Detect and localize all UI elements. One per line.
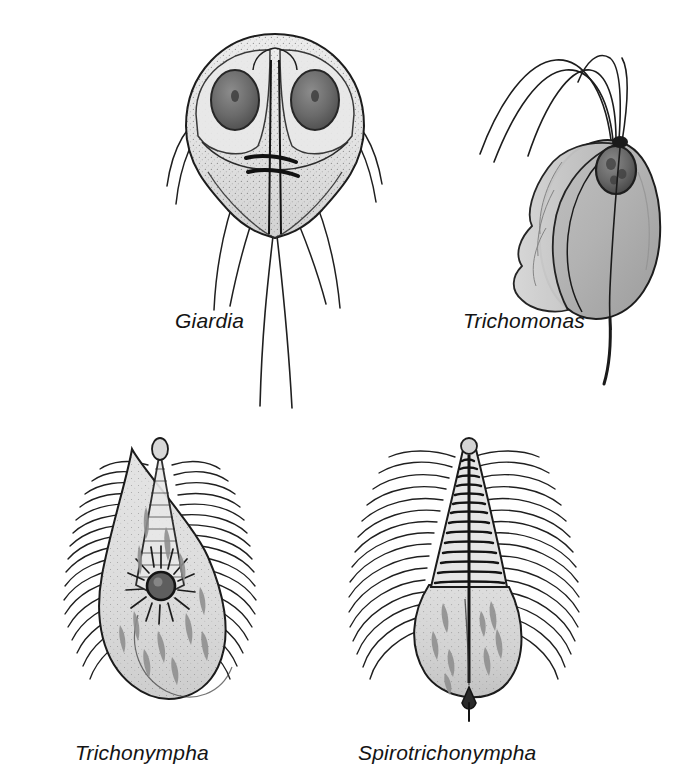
spirotrichonympha-apical-cap	[461, 438, 477, 454]
organism-trichomonas	[470, 22, 670, 402]
spirotrichonympha-drawing	[345, 435, 615, 735]
trichomonas-drawing	[470, 22, 670, 402]
giardia-caudal-flagella	[260, 236, 292, 408]
label-spirotrichonympha: Spirotrichonympha	[358, 741, 537, 765]
giardia-nucleolus-left	[231, 90, 239, 102]
giardia-nucleolus-right	[311, 90, 319, 102]
label-giardia: Giardia	[175, 309, 244, 333]
label-trichomonas: Trichomonas	[463, 309, 585, 333]
giardia-drawing	[150, 18, 400, 418]
protist-figure: Giardia	[0, 0, 691, 783]
organism-spirotrichonympha	[345, 435, 615, 735]
organism-trichonympha	[60, 435, 320, 735]
label-trichonympha: Trichonympha	[75, 741, 209, 765]
trichomonas-kinetosomal-complex	[612, 136, 628, 148]
trichonympha-drawing	[60, 435, 320, 735]
trichonympha-nucleus	[147, 572, 175, 600]
trichonympha-apical-cap	[152, 438, 168, 460]
organism-giardia	[150, 18, 400, 418]
trichonympha-nucleolus	[154, 578, 163, 587]
trichomonas-axostyle-tail	[604, 318, 610, 384]
